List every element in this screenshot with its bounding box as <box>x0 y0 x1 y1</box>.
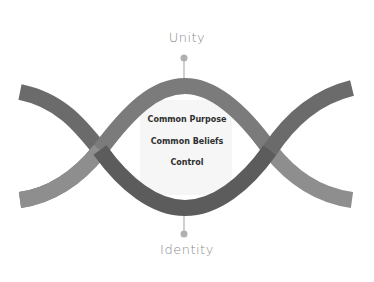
center-item: Control <box>0 158 374 167</box>
bottom-pin-dot <box>181 231 188 238</box>
bottom-label: Identity <box>0 242 374 257</box>
top-pin-dot <box>181 55 188 62</box>
top-label: Unity <box>0 30 374 45</box>
center-item: Common Beliefs <box>0 137 374 146</box>
center-item: Common Purpose <box>0 115 374 124</box>
